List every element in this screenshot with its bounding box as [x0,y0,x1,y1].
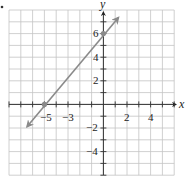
y-tick-label-2: 2 [93,74,99,86]
point-0-6 [101,31,106,36]
x-tick-label-neg5: −5 [40,111,52,123]
y-tick-label-neg4: −4 [86,145,98,157]
bullet-mark [1,6,4,9]
coordinate-plane: x y −5 −3 2 4 6 4 2 −2 −4 [0,0,185,183]
point-neg5-0 [42,102,47,107]
x-tick-label-neg3: −3 [62,111,74,123]
x-axis-label: x [178,97,185,111]
x-tick-label-2: 2 [124,111,130,123]
x-tick-label-4: 4 [148,111,154,123]
y-axis-label: y [99,0,106,11]
y-tick-label-neg2: −2 [86,121,98,133]
y-tick-label-4: 4 [93,51,99,63]
y-tick-label-6: 6 [93,27,99,39]
